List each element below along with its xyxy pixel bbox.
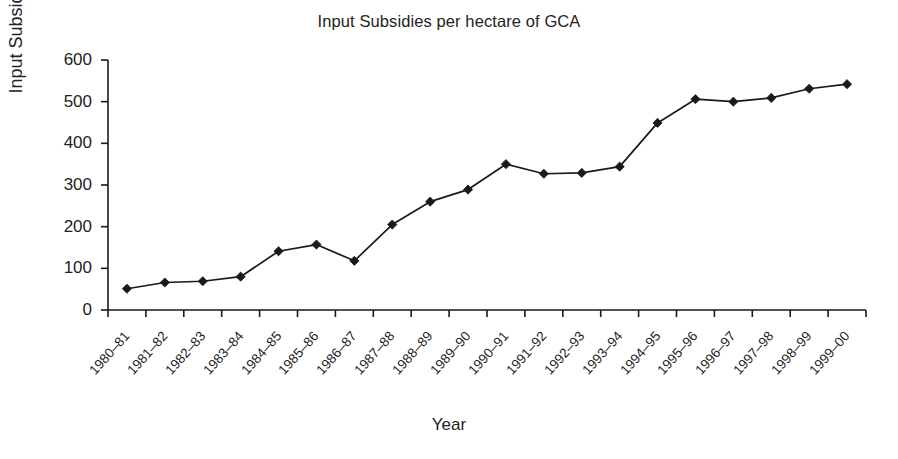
data-point-marker (236, 272, 245, 281)
plot-area (0, 0, 898, 459)
data-point-marker (312, 240, 321, 249)
data-point-marker (577, 168, 586, 177)
chart-figure: Input Subsidies per hectare of GCA Input… (0, 0, 898, 459)
data-point-marker (463, 185, 472, 194)
data-point-marker (805, 84, 814, 93)
axes (101, 60, 866, 317)
data-point-marker (274, 247, 283, 256)
data-point-marker (198, 277, 207, 286)
data-point-marker (501, 160, 510, 169)
data-series-input-subsidies (122, 80, 851, 294)
data-point-marker (767, 93, 776, 102)
data-point-marker (842, 80, 851, 89)
data-point-marker (691, 95, 700, 104)
data-point-marker (122, 284, 131, 293)
data-point-marker (426, 197, 435, 206)
data-point-marker (729, 97, 738, 106)
series-line (127, 84, 847, 289)
data-point-marker (539, 169, 548, 178)
data-point-marker (160, 278, 169, 287)
